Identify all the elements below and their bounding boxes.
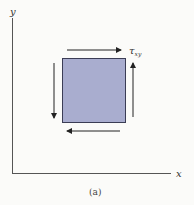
stress-element xyxy=(63,59,126,123)
x-axis-label: x xyxy=(176,168,182,179)
figure-caption: (a) xyxy=(89,187,101,197)
shear-stress-diagram: y x τxy (a) xyxy=(0,0,194,205)
shear-stress-label: τxy xyxy=(129,45,142,58)
y-axis-label: y xyxy=(9,6,16,17)
